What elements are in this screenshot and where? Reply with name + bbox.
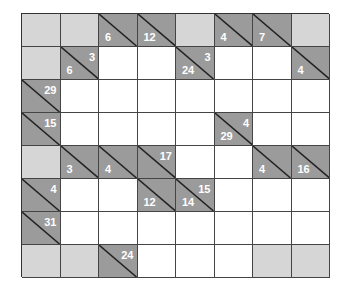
entry-cell[interactable]: [215, 212, 254, 245]
entry-cell[interactable]: [176, 80, 215, 113]
entry-cell[interactable]: [138, 212, 177, 245]
blocked-cell: [61, 14, 100, 47]
down-clue: 24: [182, 65, 194, 76]
down-clue: 4: [105, 164, 111, 175]
entry-cell[interactable]: [61, 113, 100, 146]
entry-cell[interactable]: [99, 212, 138, 245]
entry-cell[interactable]: [292, 179, 331, 212]
blocked-cell: [22, 47, 61, 80]
entry-cell[interactable]: [215, 47, 254, 80]
blocked-cell: [22, 245, 61, 278]
entry-cell[interactable]: [138, 47, 177, 80]
across-clue: 31: [44, 217, 56, 228]
clue-cell: 324: [176, 47, 215, 80]
entry-cell[interactable]: [215, 146, 254, 179]
entry-cell[interactable]: [253, 179, 292, 212]
blocked-cell: [292, 14, 331, 47]
blocked-cell: [22, 14, 61, 47]
entry-cell[interactable]: [215, 179, 254, 212]
clue-cell: 15: [22, 113, 61, 146]
clue-cell: 24: [99, 245, 138, 278]
clue-cell: 4: [292, 47, 331, 80]
entry-cell[interactable]: [292, 212, 331, 245]
down-clue: 12: [144, 197, 156, 208]
entry-cell[interactable]: [253, 47, 292, 80]
blocked-cell: [253, 245, 292, 278]
entry-cell[interactable]: [138, 80, 177, 113]
clue-cell: 4: [253, 146, 292, 179]
across-clue: 17: [160, 151, 172, 162]
clue-cell: 29: [22, 80, 61, 113]
across-clue: 3: [89, 52, 95, 63]
down-clue: 4: [259, 164, 265, 175]
entry-cell[interactable]: [176, 146, 215, 179]
down-clue: 6: [67, 65, 73, 76]
entry-cell[interactable]: [176, 212, 215, 245]
down-clue: 14: [182, 197, 194, 208]
entry-cell[interactable]: [176, 113, 215, 146]
clue-cell: 4: [215, 14, 254, 47]
entry-cell[interactable]: [292, 113, 331, 146]
across-clue: 24: [121, 250, 133, 261]
entry-cell[interactable]: [99, 47, 138, 80]
clue-cell: 4: [99, 146, 138, 179]
entry-cell[interactable]: [215, 80, 254, 113]
clue-cell: 3: [61, 146, 100, 179]
kakuro-board: 612473632442915429341741641215143124: [21, 13, 329, 277]
clue-cell: 6: [99, 14, 138, 47]
down-clue: 4: [221, 32, 227, 43]
across-clue: 3: [204, 52, 210, 63]
clue-cell: 31: [22, 212, 61, 245]
clue-cell: 36: [61, 47, 100, 80]
blocked-cell: [292, 245, 331, 278]
entry-cell[interactable]: [99, 80, 138, 113]
entry-cell[interactable]: [253, 80, 292, 113]
entry-cell[interactable]: [253, 113, 292, 146]
entry-cell[interactable]: [99, 113, 138, 146]
down-clue: 29: [221, 131, 233, 142]
entry-cell[interactable]: [292, 80, 331, 113]
entry-cell[interactable]: [138, 113, 177, 146]
entry-cell[interactable]: [215, 245, 254, 278]
down-clue: 3: [67, 164, 73, 175]
clue-cell: 4: [22, 179, 61, 212]
across-clue: 29: [44, 85, 56, 96]
entry-cell[interactable]: [61, 212, 100, 245]
down-clue: 16: [298, 164, 310, 175]
entry-cell[interactable]: [253, 212, 292, 245]
clue-cell: 17: [138, 146, 177, 179]
entry-cell[interactable]: [176, 245, 215, 278]
blocked-cell: [176, 14, 215, 47]
entry-cell[interactable]: [61, 179, 100, 212]
blocked-cell: [61, 245, 100, 278]
clue-cell: 12: [138, 179, 177, 212]
down-clue: 4: [298, 65, 304, 76]
across-clue: 15: [198, 184, 210, 195]
across-clue: 4: [243, 118, 249, 129]
clue-cell: 16: [292, 146, 331, 179]
clue-cell: 1514: [176, 179, 215, 212]
down-clue: 6: [105, 32, 111, 43]
down-clue: 7: [259, 32, 265, 43]
across-clue: 15: [44, 118, 56, 129]
blocked-cell: [22, 146, 61, 179]
clue-cell: 12: [138, 14, 177, 47]
entry-cell[interactable]: [138, 245, 177, 278]
entry-cell[interactable]: [61, 80, 100, 113]
across-clue: 4: [50, 184, 56, 195]
entry-cell[interactable]: [99, 179, 138, 212]
clue-cell: 7: [253, 14, 292, 47]
clue-cell: 429: [215, 113, 254, 146]
down-clue: 12: [144, 32, 156, 43]
